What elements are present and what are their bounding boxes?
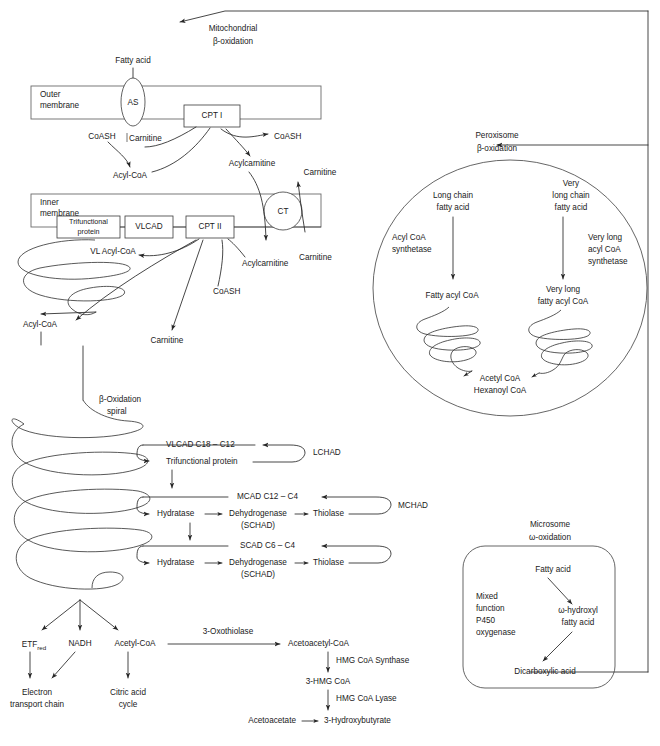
- scad-step-1: Dehydrogenase: [229, 558, 287, 567]
- acyl-coa-synthetase-line2: synthetase: [392, 245, 432, 254]
- trifunctional-label-line2: protein: [78, 227, 100, 236]
- vl-acyl-coa-label: VL Acyl-CoA: [90, 247, 136, 256]
- acyl-coa-synthetase-line1: Acyl CoA: [392, 233, 426, 242]
- mixed-function-line4: oxygenase: [476, 628, 516, 637]
- cpt2-label: CPT II: [198, 222, 221, 231]
- peroxisome-left-coil: [417, 307, 480, 376]
- mchad-label: MCHAD: [398, 501, 428, 510]
- scad-cycle-top-label: SCAD C6 – C4: [240, 541, 296, 550]
- ct-transporter: CT: [264, 192, 302, 230]
- peroxisome-hexanoyl-coa-label: Hexanoyl CoA: [474, 386, 527, 395]
- vl-acyl-coa-synthetase-line3: synthetase: [588, 257, 628, 266]
- acyl-coa-top-label: Acyl-CoA: [113, 171, 148, 180]
- peroxisome-acetyl-coa-label: Acetyl CoA: [480, 374, 521, 383]
- carnitine-top-right-label: Carnitine: [304, 168, 337, 177]
- citric-acid-line1: Citric acid: [110, 688, 146, 697]
- cpt1-box: CPT I: [184, 105, 240, 127]
- outer-membrane-label-line2: membrane: [40, 101, 80, 110]
- trifunctional-label-line1: Trifunctional: [69, 217, 108, 226]
- peroxisome-heading-line1: Peroxisome: [475, 131, 519, 140]
- as-enzyme-label: AS: [128, 98, 139, 107]
- acyl-coa-mid-label: Acyl-CoA: [23, 320, 58, 329]
- hmg-synthase-label: HMG CoA Synthase: [336, 656, 410, 665]
- omega-hydroxyl-line1: ω-hydroxyl: [558, 606, 598, 615]
- microsome-heading-line1: Microsome: [530, 520, 570, 529]
- acetoacetyl-coa-label: Acetoacetyl-CoA: [288, 639, 350, 648]
- mitochondrial-heading-line2: β-oxidation: [213, 37, 254, 46]
- scad-step-1-sub: (SCHAD): [241, 570, 275, 579]
- carnitine-mid-label: Carnitine: [151, 336, 184, 345]
- vlcad-label: VLCAD: [135, 222, 162, 231]
- mcad-step-2: Thiolase: [313, 509, 344, 518]
- peroxisome-heading: Peroxisome β-oxidation: [475, 131, 519, 153]
- mcad-step-1: Dehydrogenase: [229, 509, 287, 518]
- cpt1-label: CPT I: [202, 111, 223, 120]
- vlcad-cycle-step-0: Trifunctional protein: [166, 457, 238, 466]
- vl-chain-fatty-acid-line3: fatty acid: [555, 203, 588, 212]
- lchad-label: LCHAD: [313, 448, 341, 457]
- mixed-function-line3: P450: [476, 616, 496, 625]
- scad-step-2: Thiolase: [313, 558, 344, 567]
- cycle-scad: SCAD C6 – C4 Hydratase Dehydrogenase (SC…: [137, 541, 391, 579]
- hmg-coa-label: 3-HMG CoA: [306, 677, 351, 686]
- electron-chain-line2: transport chain: [10, 700, 65, 709]
- peroxisome-right-coil: [529, 310, 592, 377]
- microsome-heading: Microsome ω-oxidation: [529, 520, 571, 542]
- microsome-fatty-acid-label: Fatty acid: [535, 565, 571, 574]
- vlcad-cycle-top-label: VLCAD C18 – C12: [166, 440, 235, 449]
- citric-acid-line2: cycle: [119, 700, 138, 709]
- vl-acyl-coa-synthetase-line2: acyl CoA: [588, 245, 621, 254]
- oxothiolase-label: 3-Oxothiolase: [203, 627, 254, 636]
- vl-fatty-acyl-coa-line1: Very long: [546, 285, 581, 294]
- as-enzyme: AS: [121, 78, 145, 126]
- vl-chain-fatty-acid-line1: Very: [563, 179, 580, 188]
- etf-label: ETFred: [22, 640, 47, 650]
- cpt2-box: CPT II: [186, 216, 234, 238]
- mcad-cycle-top-label: MCAD C12 – C4: [237, 492, 298, 501]
- hydroxybutyrate-label: 3-Hydroxybutyrate: [324, 716, 391, 725]
- hmg-lyase-label: HMG CoA Lyase: [336, 694, 397, 703]
- microsome-body: Fatty acid Mixed function P450 oxygenase…: [463, 546, 615, 688]
- acylcarnitine-top-label: Acylcarnitine: [229, 159, 276, 168]
- vl-acyl-coa-synthetase-line1: Very long: [588, 233, 623, 242]
- mitochondrial-heading: Mitochondrial β-oxidation: [209, 24, 258, 46]
- long-chain-fatty-acid-line2: fatty acid: [437, 203, 470, 212]
- mitochondrial-heading-line1: Mitochondrial: [209, 24, 258, 33]
- coash-left-label: CoASH: [88, 132, 115, 141]
- inner-membrane-label-line1: Inner: [40, 198, 59, 207]
- electron-chain-line1: Electron: [22, 688, 52, 697]
- acetyl-coa-product-label: Acetyl-CoA: [115, 639, 156, 648]
- carnitine-mid-right-label: Carnitine: [299, 253, 332, 262]
- spiral-label-line2: spiral: [107, 407, 127, 416]
- omega-hydroxyl-line2: fatty acid: [562, 618, 595, 627]
- dicarboxylic-acid-label: Dicarboxylic acid: [514, 667, 576, 676]
- acetoacetate-label: Acetoacetate: [248, 716, 296, 725]
- carnitine-left-label: Carnitine: [129, 134, 162, 143]
- outer-membrane: Outer membrane: [31, 86, 321, 119]
- peroxisome-heading-line2: β-oxidation: [477, 144, 518, 153]
- scad-step-0: Hydratase: [157, 558, 195, 567]
- beta-oxidation-spiral-label: β-Oxidation spiral: [83, 346, 141, 416]
- mcad-step-0: Hydratase: [157, 509, 195, 518]
- ketogenesis-branch: 3-Oxothiolase Acetoacetyl-CoA HMG CoA Sy…: [168, 627, 410, 725]
- mcad-step-1-sub: (SCHAD): [241, 521, 275, 530]
- coash-right-label: CoASH: [274, 132, 301, 141]
- mixed-function-line1: Mixed: [476, 592, 498, 601]
- cycle-vlcad: VLCAD C18 – C12 Trifunctional protein LC…: [137, 440, 341, 488]
- peroxisome-body: Long chain fatty acid Very long chain fa…: [373, 160, 647, 416]
- mixed-function-line2: function: [476, 604, 505, 613]
- vlcad-box: VLCAD: [125, 216, 173, 238]
- vl-chain-fatty-acid-line2: long chain: [552, 191, 590, 200]
- beta-oxidation-main-spiral: [12, 400, 152, 589]
- fatty-acyl-coa-label: Fatty acyl CoA: [425, 291, 479, 300]
- trifunctional-protein-box: Trifunctional protein: [57, 216, 120, 238]
- outer-membrane-label-line1: Outer: [40, 90, 61, 99]
- long-chain-fatty-acid-line1: Long chain: [433, 191, 474, 200]
- products-fanout: ETFred NADH Acetyl-CoA Electron transpor…: [10, 600, 156, 709]
- nadh-label: NADH: [68, 639, 91, 648]
- acylcarnitine-mid-label: Acylcarnitine: [242, 259, 289, 268]
- microsome-heading-line2: ω-oxidation: [529, 533, 571, 542]
- vl-fatty-acyl-coa-line2: fatty acyl CoA: [538, 297, 589, 306]
- ct-label: CT: [278, 207, 289, 216]
- fatty-acid-oxidation-diagram: Mitochondrial β-oxidation Fatty acid Out…: [0, 0, 660, 746]
